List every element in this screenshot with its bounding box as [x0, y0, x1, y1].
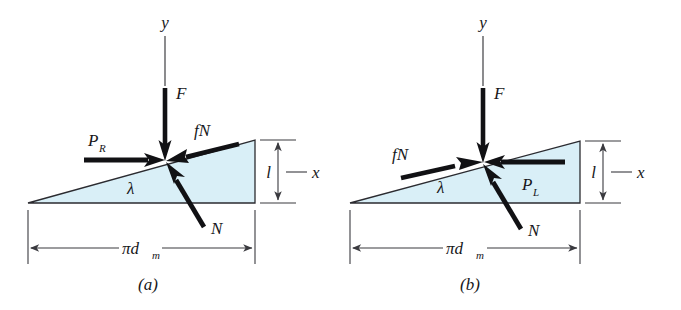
figure-root: y F P R fN N λ l	[0, 0, 681, 310]
lead-angle-label-b: λ	[436, 178, 444, 197]
panel-b: y F P L fN N λ l x	[350, 13, 645, 294]
caption-a: (a)	[138, 275, 158, 294]
y-axis-label-a: y	[159, 13, 169, 32]
force-P-sublabel-b: L	[532, 186, 539, 198]
lead-label-b: l	[591, 163, 596, 182]
lead-angle-label-a: λ	[126, 179, 134, 198]
pidm-label-a: πd	[122, 239, 140, 258]
force-diagram-svg: y F P R fN N λ l	[0, 0, 681, 310]
pidm-sublabel-b: m	[476, 249, 484, 261]
x-axis-label-b: x	[636, 163, 645, 182]
lead-label-a: l	[266, 163, 271, 182]
friction-fN-label-b: fN	[392, 145, 410, 164]
normal-N-label-a: N	[210, 219, 224, 238]
panel-a: y F P R fN N λ l	[28, 13, 320, 294]
force-F-label-b: F	[493, 84, 505, 103]
friction-fN-arrow-b	[401, 166, 455, 178]
friction-fN-arrowhead-a	[166, 149, 189, 163]
force-P-label-a: P	[87, 131, 98, 150]
x-axis-label-a: x	[311, 163, 320, 182]
force-F-label-a: F	[175, 84, 187, 103]
pidm-sublabel-a: m	[152, 249, 160, 261]
normal-N-label-b: N	[527, 221, 541, 240]
pidm-label-b: πd	[446, 239, 464, 258]
caption-b: (b)	[460, 275, 480, 294]
y-axis-label-b: y	[477, 13, 487, 32]
friction-fN-label-a: fN	[194, 121, 212, 140]
force-P-sublabel-a: R	[98, 142, 106, 154]
incline-triangle-b	[350, 141, 580, 203]
force-P-label-b: P	[521, 175, 532, 194]
